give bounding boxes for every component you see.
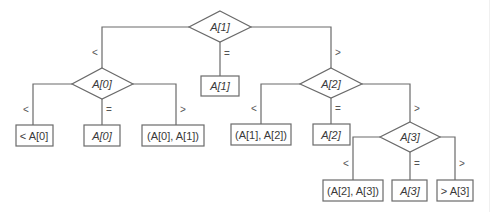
leaf-node-gt-a3: > A[3] <box>437 180 473 201</box>
edge-label-root-lt: < <box>92 47 98 58</box>
decision-node-a3: A[3] <box>380 122 440 152</box>
leaf-node-a1: A[1] <box>201 76 239 96</box>
edge-label-a0-gt: > <box>180 104 186 115</box>
edge-label-a0-eq: = <box>106 104 112 115</box>
decision-label: A[0] <box>91 78 113 90</box>
leaf-node-a3: A[3] <box>392 180 427 201</box>
decision-label: A[3] <box>399 131 421 143</box>
edge-labels: < = > < = > < = > < = > <box>23 47 465 169</box>
leaf-label: A[3] <box>399 185 421 197</box>
leaf-node-a0: A[0] <box>84 125 120 146</box>
leaf-node-a2-a3: (A[2], A[3]) <box>323 180 383 201</box>
leaf-node-a1-a2: (A[1], A[2]) <box>231 124 291 145</box>
leaf-label: A[0] <box>91 130 113 142</box>
decision-tree-diagram: < = > < = > < = > < = > A[1] A[0] A[2] A… <box>0 0 491 212</box>
decision-node-a1: A[1] <box>189 11 251 42</box>
edge-a0-lt <box>33 84 72 125</box>
edge-a3-gt <box>440 137 455 180</box>
edge-label-a2-eq: = <box>335 103 341 114</box>
edge-a0-gt <box>133 84 176 125</box>
leaf-label: > A[3] <box>441 185 469 197</box>
leaf-label: A[1] <box>209 80 231 92</box>
decision-node-a0: A[0] <box>72 68 133 99</box>
edge-root-lt <box>102 27 189 68</box>
leaf-label: (A[0], A[1]) <box>147 130 199 142</box>
leaf-label: (A[2], A[3]) <box>327 185 379 197</box>
leaf-label: A[2] <box>320 129 342 141</box>
decision-label: A[1] <box>209 21 231 33</box>
leaf-label: (A[1], A[2]) <box>235 129 287 141</box>
edge-label-a0-lt: < <box>23 104 29 115</box>
edge-label-root-gt: > <box>335 47 341 58</box>
decision-label: A[2] <box>320 78 342 90</box>
edge-label-a3-lt: < <box>343 158 349 169</box>
edge-root-gt <box>251 27 331 68</box>
leaf-node-a0-a1: (A[0], A[1]) <box>142 125 204 146</box>
edge-label-a3-gt: > <box>459 158 465 169</box>
edge-label-a3-eq: = <box>414 158 420 169</box>
edge-a2-lt <box>261 84 300 124</box>
edge-a2-gt <box>362 84 410 122</box>
edge-label-a2-gt: > <box>414 103 420 114</box>
leaf-node-lt-a0: < A[0] <box>16 125 53 146</box>
edge-label-root-eq: = <box>224 48 230 59</box>
decision-node-a2: A[2] <box>300 68 362 98</box>
edge-a3-lt <box>353 137 380 180</box>
leaf-label: < A[0] <box>20 130 48 142</box>
leaf-node-a2: A[2] <box>313 124 350 145</box>
edge-label-a2-lt: < <box>251 103 257 114</box>
